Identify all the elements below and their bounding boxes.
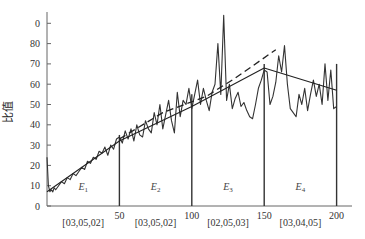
segment-code-label: [03,04,05] — [280, 217, 322, 228]
segment-code-label: [03,05,02] — [135, 217, 177, 228]
y-tick-label: 50 — [30, 99, 40, 110]
x-tick-label: 50 — [114, 210, 124, 221]
segment-label: E2 — [150, 181, 161, 194]
y-tick-label: 0 — [35, 18, 40, 29]
y-tick-label: 40 — [30, 119, 40, 130]
x-tick-label: 150 — [257, 210, 272, 221]
axes — [47, 12, 352, 206]
y-axis-label: 比值 — [2, 101, 15, 123]
segment-label: E4 — [295, 181, 306, 194]
y-tick-label: 60 — [30, 79, 40, 90]
segment-code-label: [02,05,03] — [207, 217, 249, 228]
segment-label: E1 — [77, 181, 88, 194]
x-tick-label: 100 — [184, 210, 199, 221]
y-tick-label: 10 — [30, 180, 40, 191]
series-trend — [119, 50, 275, 139]
y-tick-label: 20 — [30, 160, 40, 171]
segment-label: E3 — [222, 181, 233, 194]
line-chart: 010203040506070800 50100150200 E1[03,05,… — [0, 0, 365, 239]
y-tick-label: 30 — [30, 140, 40, 151]
x-tick-label: 200 — [329, 210, 344, 221]
y-tick-label: 0 — [35, 201, 40, 212]
segment-code-label: [03,05,02] — [62, 217, 104, 228]
y-tick-label: 70 — [30, 58, 40, 69]
y-tick-label: 80 — [30, 38, 40, 49]
